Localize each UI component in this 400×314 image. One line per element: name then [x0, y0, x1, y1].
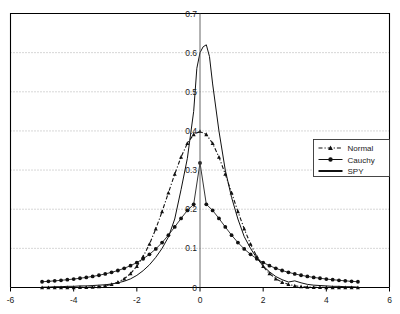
data-point-marker [141, 257, 145, 261]
x-tick-label: -4 [70, 295, 78, 305]
y-tick-label: 0.6 [185, 48, 197, 58]
data-point-marker [129, 264, 133, 268]
y-tick-label: 0.4 [185, 126, 197, 136]
data-point-marker [59, 278, 63, 282]
data-point-marker [148, 252, 152, 256]
data-point-marker [204, 202, 208, 206]
data-point-marker [154, 247, 158, 251]
data-point-marker [242, 247, 246, 251]
data-point-marker [331, 278, 335, 282]
x-tick-label: 4 [324, 295, 329, 305]
data-point-marker [230, 233, 234, 237]
y-tick-label: 0 [192, 283, 197, 293]
data-point-marker [312, 276, 316, 280]
x-tick-label: -6 [7, 295, 15, 305]
data-point-marker [160, 241, 164, 245]
x-tick-label: 6 [387, 295, 392, 305]
data-point-marker [53, 279, 57, 283]
data-point-marker [305, 275, 309, 279]
data-point-marker [211, 209, 215, 213]
data-point-marker [179, 217, 183, 221]
x-tick-label: -2 [133, 295, 141, 305]
x-tick-label: 0 [198, 295, 203, 305]
data-point-marker [84, 276, 88, 280]
data-point-marker [293, 272, 297, 276]
chart-container: 00.10.20.30.40.50.60.7 -6-4-20246 Normal… [0, 0, 400, 314]
chart-legend: NormalCauchySPY [314, 140, 390, 177]
data-point-marker [337, 278, 341, 282]
legend-label: SPY [348, 167, 365, 176]
data-point-marker [65, 278, 69, 282]
data-point-marker [287, 270, 291, 274]
data-point-marker [274, 266, 278, 270]
data-point-marker [356, 280, 360, 284]
data-point-marker [103, 272, 107, 276]
data-point-marker [97, 273, 101, 277]
data-point-marker [350, 279, 354, 283]
y-tick-label: 0.7 [185, 9, 197, 19]
data-point-marker [299, 273, 303, 277]
data-point-marker [268, 264, 272, 268]
data-point-marker [72, 277, 76, 281]
data-point-marker [122, 266, 126, 270]
y-tick-label: 0.3 [185, 165, 197, 175]
data-point-marker [217, 217, 221, 221]
legend-marker-circle [328, 157, 332, 161]
data-point-marker [135, 261, 139, 265]
data-point-marker [173, 225, 177, 229]
data-point-marker [78, 276, 82, 280]
data-point-marker [47, 279, 51, 283]
data-point-marker [40, 280, 44, 284]
data-point-marker [236, 241, 240, 245]
y-tick-label: 0.1 [185, 243, 197, 253]
data-point-marker [324, 277, 328, 281]
y-tick-label: 0.2 [185, 204, 197, 214]
data-point-marker [249, 252, 253, 256]
legend-label: Normal [348, 144, 374, 153]
x-tick-label: 2 [261, 295, 266, 305]
data-point-marker [318, 276, 322, 280]
data-point-marker [110, 270, 114, 274]
distribution-comparison-chart: 00.10.20.30.40.50.60.7 -6-4-20246 Normal… [0, 0, 400, 314]
data-point-marker [343, 279, 347, 283]
data-point-marker [280, 269, 284, 273]
data-point-marker [223, 225, 227, 229]
y-tick-label: 0.5 [185, 87, 197, 97]
data-point-marker [91, 275, 95, 279]
legend-label: Cauchy [348, 156, 375, 165]
data-point-marker [116, 269, 120, 273]
